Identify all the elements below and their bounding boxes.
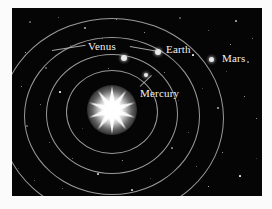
solar-system-diagram: VenusEarthMarsMercury — [12, 8, 262, 196]
venus-leader-right — [130, 46, 156, 51]
venus-leader-left — [52, 45, 86, 51]
label-mars: Mars — [222, 52, 245, 64]
label-earth: Earth — [166, 43, 191, 55]
mercury-leader — [140, 75, 152, 87]
label-venus: Venus — [88, 40, 116, 52]
planet-labels: VenusEarthMarsMercury — [12, 8, 262, 196]
label-mercury: Mercury — [140, 87, 179, 99]
figure-page: VenusEarthMarsMercury — [0, 0, 272, 209]
